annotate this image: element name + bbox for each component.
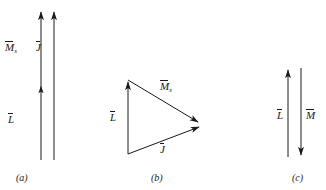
panel-b-label-Ms: Ms — [160, 77, 172, 94]
panel-a-label-Ms-subscript: s — [14, 47, 17, 55]
panel-c-caption: (c) — [292, 172, 303, 183]
panel-b-label-L-symbol: L — [110, 111, 116, 123]
vector-diagram-figure: Ms J L Ms L J L M (a) (b) (c) — [0, 0, 326, 190]
panel-c-label-M-symbol: M — [306, 109, 315, 121]
panel-a-label-Ms: Ms — [5, 38, 17, 55]
panel-a-label-L-symbol: L — [8, 113, 14, 125]
panel-b-caption: (b) — [151, 172, 163, 183]
panel-b-label-J-symbol: J — [160, 143, 165, 155]
panel-b-label-L: L — [110, 108, 116, 124]
figure-vector-graphics — [0, 0, 326, 190]
panel-c-graphics — [288, 68, 301, 157]
panel-a-label-Ms-symbol: M — [5, 41, 14, 53]
panel-c-label-L: L — [277, 106, 283, 122]
panel-a-graphics — [41, 12, 54, 160]
panel-b-label-Ms-symbol: M — [160, 80, 169, 92]
panel-c-label-L-symbol: L — [277, 109, 283, 121]
panel-c-label-M: M — [306, 106, 315, 122]
panel-a-label-J: J — [36, 38, 41, 54]
panel-a-label-J-symbol: J — [36, 41, 41, 53]
panel-b-label-Ms-subscript: s — [169, 86, 172, 94]
panel-a-caption: (a) — [16, 172, 28, 183]
panel-b-label-J: J — [160, 140, 165, 156]
panel-a-label-L: L — [8, 110, 14, 126]
